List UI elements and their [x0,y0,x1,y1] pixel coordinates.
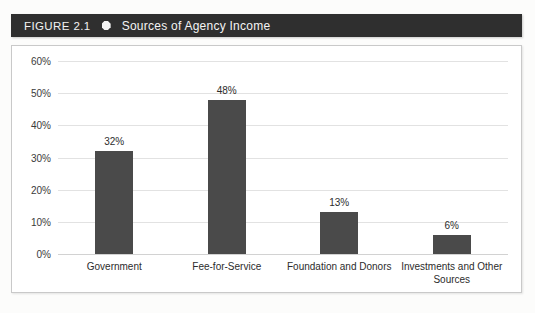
bar-series: 32%Government48%Fee-for-Service13%Founda… [58,61,508,254]
hexagon-bullet-icon [102,21,111,30]
bar-group: 32%Government [58,61,171,254]
figure-title-label: Sources of Agency Income [122,19,271,33]
gridline [58,254,508,255]
bar-group: 6%Investments and Other Sources [396,61,509,254]
bar-group: 48%Fee-for-Service [171,61,284,254]
y-axis-tick-label: 30% [31,152,51,163]
bar[interactable] [433,235,471,254]
y-axis-tick-label: 40% [31,120,51,131]
bar[interactable] [320,212,358,254]
x-axis-category-label: Fee-for-Service [171,261,283,274]
y-axis-tick-label: 0% [37,249,51,260]
figure-number-label: FIGURE 2.1 [24,20,91,32]
figure-title-banner: FIGURE 2.1 Sources of Agency Income [11,14,522,37]
bar-value-label: 6% [445,221,459,231]
y-axis-tick-label: 10% [31,216,51,227]
y-axis-tick-label: 60% [31,56,51,67]
x-axis-category-label: Investments and Other Sources [396,261,508,286]
bar-value-label: 32% [104,137,124,147]
bar[interactable] [208,100,246,254]
plot-area: 60%50%40%30%20%10%0% 32%Government48%Fee… [58,61,508,254]
figure-page: FIGURE 2.1 Sources of Agency Income 60%5… [0,0,535,313]
y-axis-tick-label: 50% [31,88,51,99]
bar-value-label: 48% [217,86,237,96]
x-axis-category-label: Foundation and Donors [283,261,395,274]
bar-group: 13%Foundation and Donors [283,61,396,254]
y-axis-tick-label: 20% [31,184,51,195]
bar-value-label: 13% [329,198,349,208]
plot-wrapper: 60%50%40%30%20%10%0% 32%Government48%Fee… [12,46,521,292]
bar[interactable] [95,151,133,254]
chart-frame: 60%50%40%30%20%10%0% 32%Government48%Fee… [11,45,522,293]
x-axis-category-label: Government [58,261,170,274]
